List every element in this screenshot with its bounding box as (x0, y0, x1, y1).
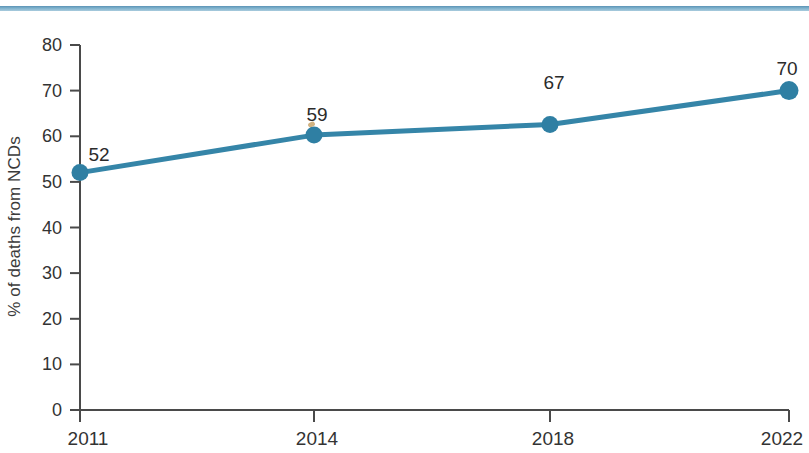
line-chart: % of deaths from NCDs 0 10 20 30 40 50 6… (0, 0, 809, 453)
data-point-marker (780, 81, 799, 100)
data-label-2011: 52 (88, 144, 109, 166)
chart-page: % of deaths from NCDs 0 10 20 30 40 50 6… (0, 0, 809, 453)
series-line (80, 91, 789, 173)
y-tick-label-50: 50 (18, 171, 62, 192)
data-label-2022: 70 (776, 58, 797, 80)
data-point-marker (542, 116, 559, 133)
data-point-marker (306, 127, 323, 144)
chart-svg (0, 0, 809, 453)
data-label-2014: 59 (306, 104, 327, 126)
y-tick-label-20: 20 (18, 308, 62, 329)
x-axis-ticks (80, 410, 789, 422)
y-tick-label-0: 0 (18, 400, 62, 421)
x-tick-label-2018: 2018 (532, 428, 574, 450)
y-tick-label-40: 40 (18, 217, 62, 238)
x-tick-label-2011: 2011 (68, 428, 109, 450)
y-axis-ticks (70, 45, 80, 410)
y-tick-label-70: 70 (18, 80, 62, 101)
data-point-marker (72, 164, 89, 181)
y-tick-label-60: 60 (18, 126, 62, 147)
x-tick-label-2022: 2022 (761, 428, 803, 450)
y-tick-label-30: 30 (18, 263, 62, 284)
x-tick-label-2014: 2014 (296, 428, 338, 450)
y-tick-label-80: 80 (18, 35, 62, 56)
data-label-2018: 67 (543, 72, 564, 94)
y-tick-label-10: 10 (18, 354, 62, 375)
